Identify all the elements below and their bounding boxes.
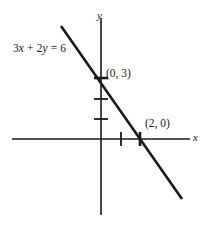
equation-constant: 6 (60, 42, 66, 54)
equation-label: 3x + 2y = 6 (13, 43, 66, 55)
equation-var-x: x (19, 42, 24, 54)
equation-plus: + (27, 42, 34, 54)
equation-var-y: y (43, 42, 48, 54)
graph-figure: 3x + 2y = 6 (0, 3) (2, 0) y x (0, 0, 210, 231)
y-axis-label: y (97, 10, 102, 21)
equation-equals: = (51, 42, 58, 54)
coordinate-plane-svg (0, 0, 210, 231)
x-intercept-label: (2, 0) (145, 118, 170, 130)
x-axis-label: x (193, 132, 198, 143)
equation-line (61, 26, 182, 199)
y-intercept-label: (0, 3) (106, 68, 131, 80)
